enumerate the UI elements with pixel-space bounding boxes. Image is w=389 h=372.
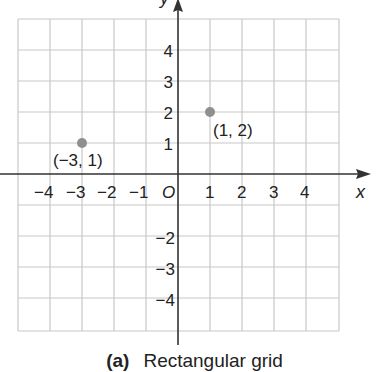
y-tick: 4 (164, 42, 173, 61)
caption-tag: (a) (106, 350, 129, 371)
x-tick: 1 (205, 183, 214, 202)
x-tick: −2 (97, 183, 116, 202)
y-axis-label: y (158, 0, 170, 8)
caption-text: Rectangular grid (143, 350, 282, 371)
point-label: (1, 2) (213, 121, 253, 140)
x-axis (0, 169, 371, 179)
coordinate-plane: x y −4 −3 −2 −1 O 1 2 3 4 4 3 2 1 −2 −3 … (0, 0, 389, 372)
x-tick: −4 (34, 183, 53, 202)
y-tick: 2 (164, 104, 173, 123)
figure-caption: (a)Rectangular grid (0, 350, 389, 372)
y-tick: −4 (156, 291, 175, 310)
y-tick: 3 (164, 73, 173, 92)
x-axis-arrow-icon (356, 169, 371, 179)
origin-label: O (162, 183, 175, 202)
x-tick: 3 (269, 183, 278, 202)
x-tick: 2 (237, 183, 246, 202)
x-tick: 4 (300, 183, 309, 202)
data-points: (1, 2) (−3, 1) (53, 107, 253, 170)
y-tick: 1 (164, 135, 173, 154)
y-tick-labels: 4 3 2 1 −2 −3 −4 (156, 42, 175, 310)
x-tick-labels: −4 −3 −2 −1 O 1 2 3 4 (34, 183, 309, 202)
x-tick: −3 (66, 183, 85, 202)
point-neg3-1 (77, 138, 87, 148)
y-tick: −3 (156, 260, 175, 279)
point-1-2 (205, 107, 215, 117)
x-axis-label: x (355, 182, 366, 202)
point-label: (−3, 1) (53, 151, 103, 170)
x-tick: −1 (129, 183, 148, 202)
y-tick: −2 (156, 229, 175, 248)
